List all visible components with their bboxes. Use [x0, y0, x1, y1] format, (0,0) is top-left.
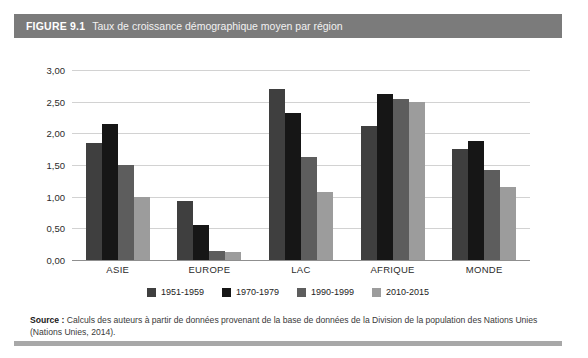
figure-number: FIGURE 9.1: [26, 20, 85, 32]
source-text: Calculs des auteurs à partir de données …: [30, 315, 537, 337]
bar: [118, 165, 134, 260]
bottom-rule: [14, 341, 562, 346]
bars-layer: [72, 70, 530, 260]
bar: [209, 251, 225, 261]
figure-header: FIGURE 9.1 Taux de croissance démographi…: [14, 14, 562, 38]
bar: [285, 113, 301, 260]
bar: [301, 157, 317, 260]
bar: [468, 141, 484, 260]
x-axis-labels: ASIEEUROPELACAFRIQUEMONDE: [72, 264, 530, 275]
bar: [225, 252, 241, 260]
bar-group: [438, 70, 530, 260]
bar: [361, 126, 377, 260]
bar: [484, 170, 500, 260]
x-axis-tick-label: ASIE: [72, 264, 164, 275]
legend-swatch-icon: [297, 288, 306, 297]
bar: [86, 143, 102, 260]
x-axis-tick-label: AFRIQUE: [347, 264, 439, 275]
bar: [193, 225, 209, 260]
chart-legend: 1951-19591970-19791990-19992010-2015: [14, 287, 562, 297]
y-axis-tick-label: 0,00: [47, 255, 66, 266]
legend-item[interactable]: 1951-1959: [147, 287, 204, 297]
y-axis-tick-label: 2,00: [47, 128, 66, 139]
legend-item[interactable]: 1970-1979: [222, 287, 279, 297]
source-note: Source : Calculs des auteurs à partir de…: [30, 314, 542, 339]
bar: [134, 197, 150, 260]
x-axis-tick-label: MONDE: [438, 264, 530, 275]
y-axis-tick-label: 0,50: [47, 223, 66, 234]
legend-swatch-icon: [147, 288, 156, 297]
bar-group: [255, 70, 347, 260]
x-axis-tick-label: LAC: [255, 264, 347, 275]
bar-group: [347, 70, 439, 260]
legend-label: 2010-2015: [386, 287, 429, 297]
legend-item[interactable]: 1990-1999: [297, 287, 354, 297]
bar: [452, 149, 468, 260]
legend-swatch-icon: [372, 288, 381, 297]
bar: [102, 124, 118, 260]
figure-card: FIGURE 9.1 Taux de croissance démographi…: [14, 14, 562, 344]
legend-swatch-icon: [222, 288, 231, 297]
figure-title: Taux de croissance démographique moyen p…: [92, 20, 342, 32]
gridline: 0,00: [72, 260, 530, 261]
plot-area: 0,000,501,001,502,002,503,00: [72, 70, 530, 260]
chart-body: 0,000,501,001,502,002,503,00 ASIEEUROPEL…: [14, 38, 562, 344]
legend-label: 1990-1999: [311, 287, 354, 297]
x-axis-tick-label: EUROPE: [164, 264, 256, 275]
bar: [409, 102, 425, 260]
bar: [317, 192, 333, 260]
y-axis-tick-label: 1,00: [47, 191, 66, 202]
y-axis-tick-label: 1,50: [47, 160, 66, 171]
legend-label: 1951-1959: [161, 287, 204, 297]
bar: [377, 94, 393, 260]
bar: [500, 187, 516, 260]
legend-item[interactable]: 2010-2015: [372, 287, 429, 297]
bar: [393, 99, 409, 261]
y-axis-tick-label: 3,00: [47, 65, 66, 76]
bar-group: [72, 70, 164, 260]
bar: [177, 201, 193, 260]
bar-group: [164, 70, 256, 260]
bar: [269, 89, 285, 260]
y-axis-tick-label: 2,50: [47, 96, 66, 107]
source-label: Source :: [30, 315, 64, 325]
legend-label: 1970-1979: [236, 287, 279, 297]
